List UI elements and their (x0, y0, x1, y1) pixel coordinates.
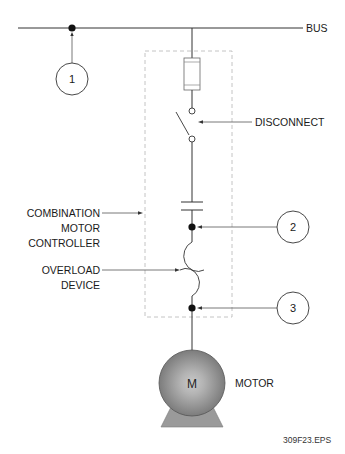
arrowhead-icon (197, 306, 202, 309)
switch-icon (176, 108, 195, 142)
callout-2-number: 2 (290, 221, 296, 233)
disconnect-label: DISCONNECT (255, 116, 325, 128)
motor-icon: M (159, 350, 225, 427)
motor-symbol: M (187, 377, 197, 391)
callout-1-number: 1 (69, 73, 75, 85)
bus-junction-dot (68, 24, 75, 31)
motor-circuit-diagram: BUS 1 DISCONNECT (0, 0, 345, 454)
arrowhead-icon (175, 268, 180, 271)
contactor-icon (181, 202, 203, 210)
arrowhead-icon (198, 120, 203, 123)
overload-icon (180, 242, 204, 296)
callout-1: 1 (56, 32, 88, 95)
combination-controller-enclosure (145, 51, 232, 317)
disconnect-callout: DISCONNECT (198, 116, 325, 128)
callout-3: 3 (197, 292, 309, 324)
motor-label: MOTOR (235, 377, 274, 389)
overload-label-line1: OVERLOAD (42, 264, 101, 276)
bus: BUS (18, 22, 328, 34)
arrowhead-icon (197, 225, 202, 228)
overload-label-line2: DEVICE (61, 279, 100, 291)
combination-label-line3: CONTROLLER (28, 237, 100, 249)
arrowhead-icon (70, 32, 73, 36)
overload-output-junction-dot (188, 304, 195, 311)
combination-label-line1: COMBINATION (27, 207, 100, 219)
figure-id: 309F23.EPS (283, 435, 332, 445)
callout-2: 2 (197, 211, 309, 243)
controller-output-junction-dot (188, 223, 195, 230)
bus-label: BUS (306, 22, 328, 34)
overload-device-callout: OVERLOAD DEVICE (42, 264, 180, 291)
callout-3-number: 3 (290, 302, 296, 314)
combination-controller-callout: COMBINATION MOTOR CONTROLLER (27, 207, 143, 249)
combination-label-line2: MOTOR (61, 222, 100, 234)
fuse-icon (184, 58, 200, 90)
arrowhead-icon (138, 211, 143, 214)
